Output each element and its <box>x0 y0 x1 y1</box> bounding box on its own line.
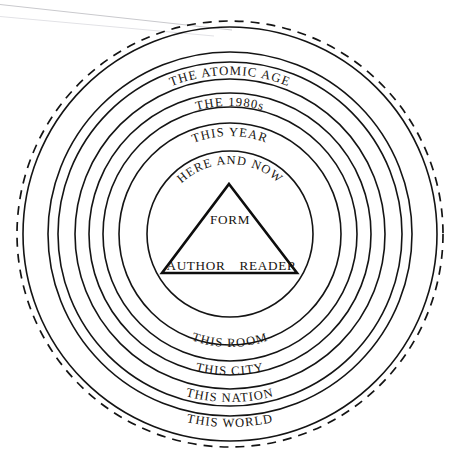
ring-group <box>17 21 443 447</box>
ring-world <box>23 27 437 441</box>
node-form: FORM <box>210 212 250 227</box>
ring-the-1980s-label-text: THE 1980s <box>194 95 266 113</box>
ring-this-year-label-text: THIS YEAR <box>190 125 270 146</box>
ring-city-label: THIS CITY <box>195 360 266 378</box>
ring-room-label-text: THIS ROOM <box>190 330 269 350</box>
ring-label-group: THIS WORLDTHIS NATIONTHIS CITYTHIS ROOMH… <box>167 64 292 430</box>
node-reader: READER <box>240 258 297 273</box>
ring-world-label: THIS WORLD <box>186 411 275 430</box>
ring-world-label-text: THIS WORLD <box>186 411 275 430</box>
ring-here-and-now-label-text: HERE AND NOW <box>174 153 286 186</box>
ring-here-and-now-label: HERE AND NOW <box>174 153 286 186</box>
node-author: AUTHOR <box>166 258 225 273</box>
ring-room-label: THIS ROOM <box>190 330 269 350</box>
ring-atomic-age <box>58 62 402 406</box>
concentric-contexts-diagram: THIS WORLDTHIS NATIONTHIS CITYTHIS ROOMH… <box>0 0 458 472</box>
ring-the-1980s-label: THE 1980s <box>194 95 266 113</box>
ring-this-year-label: THIS YEAR <box>190 125 270 146</box>
ring-room <box>103 107 357 361</box>
diagram-canvas: THIS WORLDTHIS NATIONTHIS CITYTHIS ROOMH… <box>0 0 458 472</box>
ring-outermost <box>17 21 443 447</box>
scan-artifact-group <box>0 4 232 36</box>
ring-city-label-text: THIS CITY <box>195 360 266 378</box>
ring-here-and-now <box>147 151 313 317</box>
page-edge-line-icon <box>0 4 232 30</box>
